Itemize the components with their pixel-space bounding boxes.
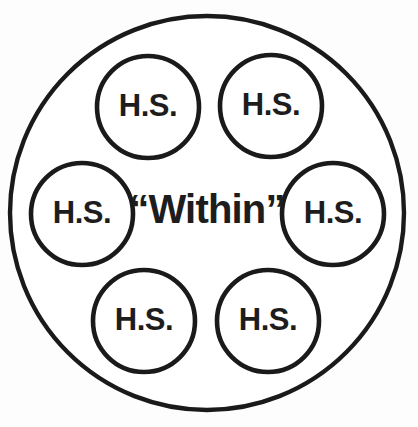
node-label-hs-middle-right: H.S.	[304, 195, 362, 230]
node-label-hs-bottom-left: H.S.	[115, 302, 173, 337]
diagram-canvas: H.S. H.S. H.S. H.S. H.S. H.S. “Within”	[0, 0, 418, 427]
node-label-hs-middle-left: H.S.	[53, 195, 111, 230]
node-label-hs-top-right: H.S.	[242, 87, 300, 122]
node-label-hs-top-left: H.S.	[119, 88, 177, 123]
center-label-within: “Within”	[129, 187, 284, 231]
within-circles-diagram: H.S. H.S. H.S. H.S. H.S. H.S. “Within”	[0, 0, 418, 427]
node-label-hs-bottom-right: H.S.	[239, 302, 297, 337]
